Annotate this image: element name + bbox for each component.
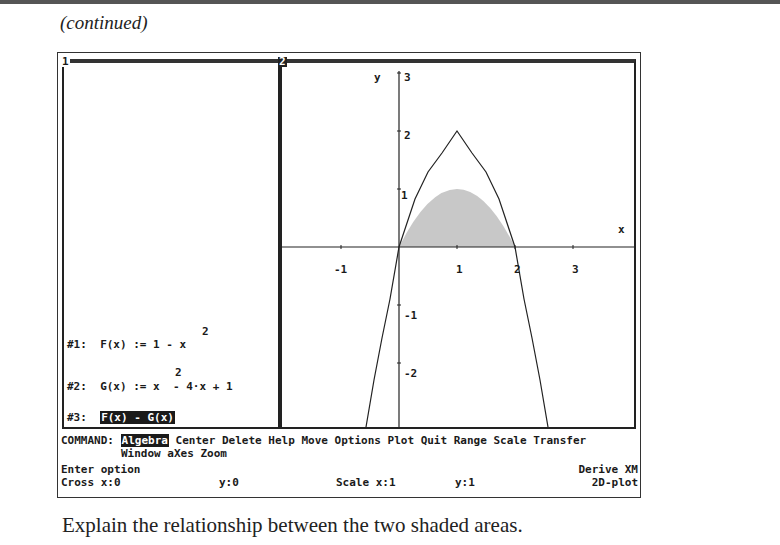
- derive-screen: 1 2 #1: F(x) := 1 - x 2 #2: G(x) := x - …: [57, 52, 641, 498]
- scale-x: Scale x:1: [336, 476, 396, 489]
- shaded-area: [399, 189, 515, 247]
- plot-canvas: y x -1 1 2 3 3 2 1 -1 -2: [282, 63, 634, 427]
- expr-1-text: F(x) := 1 - x: [100, 338, 186, 351]
- algebra-window[interactable]: 1 2 #1: F(x) := 1 - x 2 #2: G(x) := x - …: [62, 59, 280, 429]
- expr-1-label: #1:: [67, 338, 87, 351]
- expr-3-label: #3:: [67, 411, 87, 424]
- x-tick-3: 3: [572, 263, 579, 276]
- y-axis-label: y: [374, 71, 381, 84]
- window-1-number[interactable]: 1: [61, 57, 70, 67]
- x-axis-label: x: [618, 223, 625, 236]
- expression-2[interactable]: #2: G(x) := x - 4·x + 1: [67, 380, 233, 393]
- expression-1[interactable]: #1: F(x) := 1 - x: [67, 338, 186, 351]
- expr-2-exponent: 2: [175, 366, 182, 379]
- expr-1-exponent: 2: [202, 325, 209, 338]
- mode-indicator: 2D-plot: [592, 476, 638, 489]
- menu-item-algebra[interactable]: Algebra: [121, 434, 169, 447]
- x-tick-2: 2: [514, 263, 521, 276]
- x-tick-neg1: -1: [334, 263, 348, 276]
- continued-label: (continued): [60, 12, 148, 34]
- command-menu-line1: COMMAND: Algebra Center Delete Help Move…: [61, 434, 586, 447]
- y-tick-2: 2: [404, 129, 411, 142]
- expr-3-text-highlighted: F(x) - G(x): [100, 411, 175, 424]
- y-tick-3: 3: [404, 71, 411, 84]
- command-prefix: COMMAND:: [61, 434, 114, 447]
- expr-2-label: #2:: [67, 380, 87, 393]
- y-tick-neg2: -2: [404, 367, 417, 380]
- cross-y: y:0: [219, 476, 239, 489]
- cross-x: Cross x:0: [61, 476, 121, 489]
- expr-2-text: G(x) := x - 4·x + 1: [100, 380, 232, 393]
- menu-options-line1[interactable]: Center Delete Help Move Options Plot Qui…: [176, 434, 587, 447]
- scale-y: y:1: [455, 476, 475, 489]
- prompt-text: Enter option: [61, 463, 140, 476]
- menu-options-line2[interactable]: Window aXes Zoom: [121, 447, 227, 460]
- y-tick-neg1: -1: [404, 309, 418, 322]
- x-tick-1: 1: [456, 263, 463, 276]
- plot-window[interactable]: 2 y x -1 1 2: [280, 59, 636, 429]
- page-top-rule: [0, 0, 780, 4]
- caption-text: Explain the relationship between the two…: [62, 513, 523, 538]
- expression-3[interactable]: #3: F(x) - G(x): [67, 411, 175, 424]
- curve-f-minus-g: [366, 131, 548, 427]
- y-tick-1: 1: [401, 189, 408, 202]
- app-name: Derive XM: [578, 463, 638, 476]
